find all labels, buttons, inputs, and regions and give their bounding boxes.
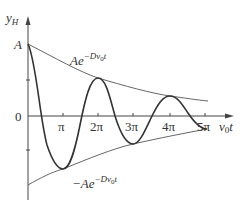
y-axis-arrow-icon <box>26 16 31 25</box>
lower-envelope-curve <box>28 129 207 185</box>
x-tick-label-pi: π <box>58 119 65 134</box>
x-tick-label-3pi: 3π <box>125 119 139 134</box>
amplitude-label: A <box>13 37 22 52</box>
x-axis-arrow-icon <box>225 114 234 119</box>
origin-label: 0 <box>15 109 22 124</box>
x-tick-label-4pi: 4π <box>162 119 176 134</box>
upper-envelope-label: Ae−Dv0t <box>69 51 107 68</box>
x-axis-label: v0t <box>219 119 233 135</box>
x-tick-label-5pi: 5π <box>197 119 211 134</box>
upper-envelope-curve <box>28 44 208 101</box>
damped-oscillation-diagram: yH A 0 π 2π 3π 4π 5π v0t Ae−Dv0t −Ae−Dv0… <box>0 0 252 212</box>
damped-oscillation-curve <box>28 44 207 169</box>
y-axis-label: yH <box>4 10 19 27</box>
lower-envelope-label: −Ae−Dv0t <box>72 174 118 191</box>
x-tick-label-2pi: 2π <box>90 119 104 134</box>
